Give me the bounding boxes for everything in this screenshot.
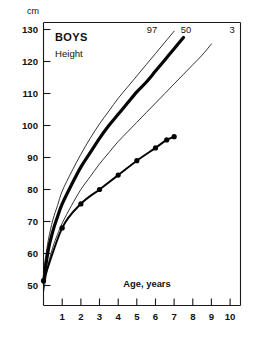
y-tick-label-70: 70 (27, 216, 38, 227)
growth-chart-figure: 130 120 110 100 90 80 70 60 50 cm 1 2 (0, 0, 260, 338)
percentile-label-3: 3 (229, 24, 234, 35)
x-axis-title: Age, years (123, 278, 170, 289)
chart-subtitle: Height (55, 48, 83, 59)
y-tick-label-120: 120 (22, 56, 38, 67)
patient-data-point (134, 158, 139, 163)
patient-data-point (116, 173, 121, 178)
patient-data-point (97, 187, 102, 192)
curve-50 (44, 38, 184, 283)
patient-data-point (60, 225, 65, 230)
x-tick-label-8: 8 (190, 311, 196, 322)
patient-data-point (41, 278, 46, 283)
x-tick-label-3: 3 (97, 311, 102, 322)
curve-97 (44, 31, 175, 271)
y-tick-label-130: 130 (22, 24, 38, 35)
y-tick-label-60: 60 (27, 248, 38, 259)
patient-data-point (78, 201, 83, 206)
x-tick-label-5: 5 (134, 311, 140, 322)
curves-layer (44, 31, 212, 292)
x-tick-label-2: 2 (78, 311, 83, 322)
y-tick-label-90: 90 (27, 152, 38, 163)
y-tick-label-50: 50 (27, 280, 38, 291)
patient-data-point (153, 145, 158, 150)
x-tick-label-4: 4 (116, 311, 122, 322)
x-tick-label-7: 7 (171, 311, 176, 322)
percentile-label-50: 50 (181, 24, 191, 35)
growth-chart-page: 130 120 110 100 90 80 70 60 50 cm 1 2 (0, 0, 260, 338)
percentile-label-97: 97 (147, 24, 157, 35)
patient-data-point (164, 137, 169, 142)
y-axis-unit-label: cm (27, 6, 39, 16)
patient-data-point (172, 134, 177, 139)
x-tick-label-9: 9 (209, 311, 214, 322)
y-tick-label-110: 110 (23, 88, 38, 99)
x-tick-label-10: 10 (225, 311, 236, 322)
x-axis-tick-labels: 1 2 3 4 5 6 7 8 9 10 (60, 311, 236, 322)
y-axis-tick-labels: 130 120 110 100 90 80 70 60 50 (22, 24, 38, 291)
x-tick-label-1: 1 (60, 311, 66, 322)
plot-frame (44, 23, 241, 306)
x-tick-label-6: 6 (153, 311, 158, 322)
y-tick-label-80: 80 (27, 184, 38, 195)
chart-title: BOYS (55, 31, 88, 43)
x-axis-ticks (62, 299, 230, 306)
y-tick-label-100: 100 (22, 120, 38, 131)
curve-patient (44, 137, 175, 281)
